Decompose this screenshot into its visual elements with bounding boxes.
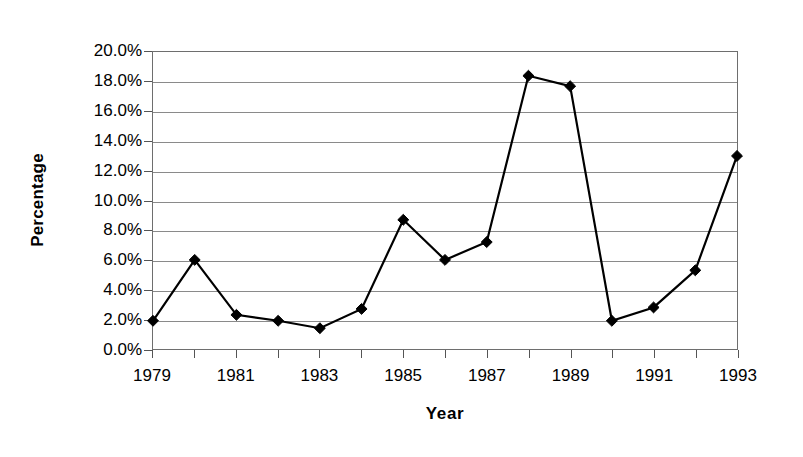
data-point-marker xyxy=(314,323,325,334)
x-axis-tick-mark xyxy=(738,350,739,358)
data-series-percentage xyxy=(153,52,737,349)
y-axis-tick-label: 20.0% xyxy=(94,41,142,61)
y-axis-tick-label: 16.0% xyxy=(94,101,142,121)
x-axis-tick-label: 1991 xyxy=(635,366,673,386)
x-axis-tick-label: 1993 xyxy=(719,366,757,386)
x-axis-tick-mark xyxy=(152,350,153,358)
x-axis-tick-mark xyxy=(612,350,613,358)
line-chart: Percentage 0.0%2.0%4.0%6.0%8.0%10.0%12.0… xyxy=(0,0,803,457)
x-axis-tick-mark xyxy=(487,350,488,358)
y-axis-tick-label: 18.0% xyxy=(94,71,142,91)
x-axis-tick-mark xyxy=(654,350,655,358)
x-axis-tick-label: 1989 xyxy=(552,366,590,386)
y-axis-tick-mark xyxy=(144,81,152,82)
y-axis-tick-label: 10.0% xyxy=(94,191,142,211)
data-point-marker xyxy=(356,303,367,314)
x-axis-tick-mark xyxy=(236,350,237,358)
data-point-marker xyxy=(732,150,743,161)
y-axis-tick-marks xyxy=(144,51,152,350)
y-axis-tick-mark xyxy=(144,260,152,261)
x-axis-tick-label: 1987 xyxy=(468,366,506,386)
y-axis-tick-label: 12.0% xyxy=(94,161,142,181)
y-axis-title-label: Percentage xyxy=(28,153,48,247)
y-axis-tick-label: 0.0% xyxy=(103,340,142,360)
x-axis-tick-label: 1983 xyxy=(301,366,339,386)
x-axis-tick-mark xyxy=(403,350,404,358)
x-axis-tick-mark xyxy=(696,350,697,358)
x-axis-tick-label: 1979 xyxy=(133,366,171,386)
y-axis-tick-labels: 0.0%2.0%4.0%6.0%8.0%10.0%12.0%14.0%16.0%… xyxy=(52,0,148,457)
series-line xyxy=(153,76,737,328)
y-axis-tick-label: 14.0% xyxy=(94,131,142,151)
x-axis-tick-mark xyxy=(194,350,195,358)
data-point-marker xyxy=(565,81,576,92)
x-axis-tick-mark xyxy=(529,350,530,358)
y-axis-tick-mark xyxy=(144,201,152,202)
x-axis-title: Year xyxy=(152,404,738,424)
y-axis-tick-mark xyxy=(144,171,152,172)
x-axis-tick-mark xyxy=(361,350,362,358)
x-axis-tick-labels: 19791981198319851987198919911993 xyxy=(152,366,738,396)
x-axis-tick-mark xyxy=(571,350,572,358)
y-axis-tick-mark xyxy=(144,230,152,231)
x-axis-tick-mark xyxy=(319,350,320,358)
y-axis-tick-label: 2.0% xyxy=(103,310,142,330)
data-point-marker xyxy=(523,70,534,81)
x-axis-tick-mark xyxy=(278,350,279,358)
y-axis-tick-mark xyxy=(144,350,152,351)
data-point-marker xyxy=(606,315,617,326)
y-axis-tick-mark xyxy=(144,111,152,112)
y-axis-tick-label: 8.0% xyxy=(103,220,142,240)
x-axis-tick-label: 1985 xyxy=(384,366,422,386)
y-axis-tick-mark xyxy=(144,290,152,291)
x-axis-tick-label: 1981 xyxy=(217,366,255,386)
x-axis-tick-mark xyxy=(445,350,446,358)
plot-area xyxy=(152,51,738,350)
x-axis-tick-marks xyxy=(152,350,738,358)
data-point-marker xyxy=(273,315,284,326)
data-point-marker xyxy=(481,237,492,248)
y-axis-tick-label: 4.0% xyxy=(103,280,142,300)
y-axis-tick-label: 6.0% xyxy=(103,250,142,270)
y-axis-tick-mark xyxy=(144,51,152,52)
y-axis-tick-mark xyxy=(144,141,152,142)
